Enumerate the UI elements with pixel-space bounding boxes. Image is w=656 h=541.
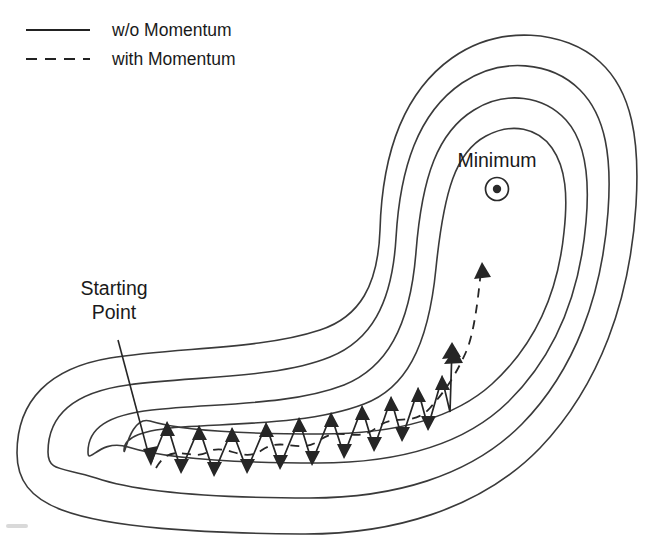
starting-point-label-line2: Point bbox=[92, 301, 137, 323]
zigzag-arrow-head-6-icon bbox=[240, 459, 255, 474]
scan-artifact bbox=[6, 524, 28, 528]
zigzag-arrow-head-12-icon bbox=[337, 444, 352, 459]
zigzag-arrow-head-14-icon bbox=[367, 437, 382, 452]
zigzag-arrow-head-16-icon bbox=[395, 427, 410, 442]
zigzag-arrow-head-2-icon bbox=[174, 459, 189, 474]
zigzag-arrow-head-17-icon bbox=[411, 387, 426, 402]
zigzag-arrow-head-5-icon bbox=[225, 427, 240, 442]
legend-label-without-momentum: w/o Momentum bbox=[111, 20, 232, 40]
figure-root: Minimum Starting Point bbox=[0, 0, 656, 541]
minimum-marker-group bbox=[486, 178, 509, 201]
zigzag-arrow-head-4-icon bbox=[207, 462, 222, 477]
path-with-momentum bbox=[156, 262, 491, 468]
minimum-label: Minimum bbox=[457, 149, 536, 171]
zigzag-arrow-head-18-icon bbox=[421, 416, 436, 431]
contour-diagram: Minimum Starting Point bbox=[0, 0, 656, 541]
zigzag-arrow-head-3-icon bbox=[192, 425, 207, 440]
momentum-path-end-arrow-icon bbox=[474, 262, 491, 279]
legend: w/o Momentum with Momentum bbox=[26, 20, 236, 69]
starting-point-label-line1: Starting bbox=[80, 277, 147, 299]
zigzag-arrow-head-15-icon bbox=[384, 396, 399, 411]
leader-line-segment bbox=[118, 340, 149, 456]
circle-dot-icon-center bbox=[493, 185, 501, 193]
leader-arrow-head-icon bbox=[143, 446, 158, 466]
zigzag-arrow-head-19-icon bbox=[435, 375, 450, 390]
zigzag-arrow-head-7-icon bbox=[259, 422, 274, 437]
legend-label-with-momentum: with Momentum bbox=[111, 49, 236, 69]
contour-level-4-innermost bbox=[124, 128, 566, 451]
path-without-momentum bbox=[151, 342, 461, 477]
